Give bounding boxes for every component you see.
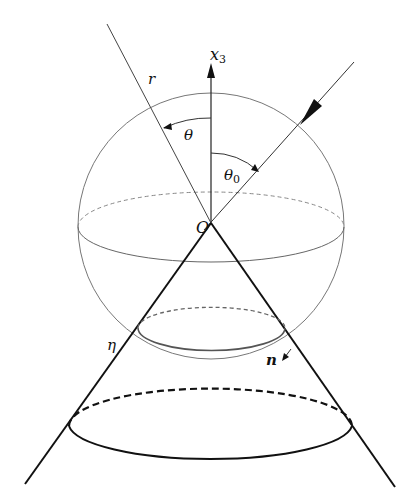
theta-arrowhead <box>163 123 172 130</box>
cone-base-front <box>69 426 352 459</box>
theta0-label: θ0 <box>224 166 240 186</box>
theta0-arrowhead <box>251 164 259 172</box>
theta-label: θ <box>184 126 193 144</box>
radius-label: r <box>148 70 156 88</box>
inner-cone-circle-back <box>138 307 285 328</box>
inner-cone-circle-front <box>138 328 285 350</box>
cone-left-line <box>25 223 211 484</box>
theta0-arc <box>211 153 258 171</box>
normal-label: n <box>266 351 277 369</box>
normal-arrowhead <box>282 353 289 361</box>
incident-ray <box>204 62 354 230</box>
radius-line-r <box>107 24 211 223</box>
incident-ray-arrowhead <box>300 99 322 125</box>
x3-axis-arrowhead <box>207 63 215 78</box>
x3-axis-label: x3 <box>210 45 226 66</box>
cone-right-line <box>211 223 395 487</box>
sphere-cone-diagram: x3 r θ θ0 O η n <box>0 0 418 500</box>
equator-front <box>78 227 344 262</box>
eta-label: η <box>107 336 116 354</box>
cone-base-back <box>69 389 352 426</box>
origin-label: O <box>196 218 209 237</box>
